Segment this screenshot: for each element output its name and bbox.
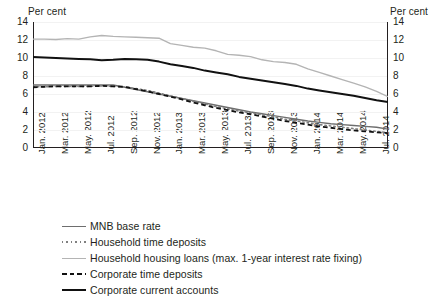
legend-item-label: Corporate time deposits bbox=[90, 268, 203, 280]
series-line-2 bbox=[33, 36, 388, 97]
y-tick-label-right: 12 bbox=[393, 35, 415, 45]
series-line-4 bbox=[33, 57, 388, 102]
legend-item[interactable]: Corporate time deposits bbox=[62, 266, 432, 282]
chart-legend: MNB base rateHousehold time depositsHous… bbox=[62, 218, 432, 298]
interest-rate-chart: Per cent Per cent 02468101214 0246810121… bbox=[0, 0, 438, 304]
legend-line-sample-icon bbox=[62, 284, 86, 296]
legend-item[interactable]: Household time deposits bbox=[62, 234, 432, 250]
legend-item-label: Corporate current accounts bbox=[90, 284, 219, 296]
y-tick-label-left: 14 bbox=[6, 17, 28, 27]
legend-item-label: MNB base rate bbox=[90, 220, 161, 232]
plot-area bbox=[33, 22, 388, 148]
y-tick-label-right: 4 bbox=[393, 107, 415, 117]
left-axis-title: Per cent bbox=[28, 6, 66, 17]
y-tick-label-left: 10 bbox=[6, 53, 28, 63]
y-tick-label-right: 8 bbox=[393, 71, 415, 81]
y-tick-label-left: 2 bbox=[6, 125, 28, 135]
legend-line-sample-icon bbox=[62, 252, 86, 264]
y-tick-label-left: 12 bbox=[6, 35, 28, 45]
y-tick-label-left: 6 bbox=[6, 89, 28, 99]
legend-item[interactable]: MNB base rate bbox=[62, 218, 432, 234]
legend-line-sample-icon bbox=[62, 236, 86, 248]
legend-item[interactable]: Household housing loans (max. 1-year int… bbox=[62, 250, 432, 266]
y-tick-label-right: 0 bbox=[393, 143, 415, 153]
y-tick-label-right: 14 bbox=[393, 17, 415, 27]
y-tick-label-right: 6 bbox=[393, 89, 415, 99]
legend-item-label: Household housing loans (max. 1-year int… bbox=[90, 252, 362, 264]
legend-line-sample-icon bbox=[62, 268, 86, 280]
y-tick-label-right: 10 bbox=[393, 53, 415, 63]
legend-item-label: Household time deposits bbox=[90, 236, 206, 248]
y-tick-label-left: 0 bbox=[6, 143, 28, 153]
legend-item[interactable]: Corporate current accounts bbox=[62, 282, 432, 298]
y-tick-label-left: 4 bbox=[6, 107, 28, 117]
legend-line-sample-icon bbox=[62, 220, 86, 232]
plot-svg bbox=[33, 22, 388, 148]
y-tick-label-left: 8 bbox=[6, 71, 28, 81]
y-tick-label-right: 2 bbox=[393, 125, 415, 135]
